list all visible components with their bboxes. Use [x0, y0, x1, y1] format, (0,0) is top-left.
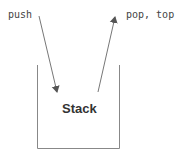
stack-label: Stack: [62, 101, 97, 116]
push-label: push: [8, 9, 32, 20]
stack-diagram: push pop, top Stack: [0, 0, 181, 158]
push-arrow: [39, 16, 57, 92]
pop-top-label: pop, top: [126, 9, 174, 20]
pop-arrow: [98, 17, 115, 92]
